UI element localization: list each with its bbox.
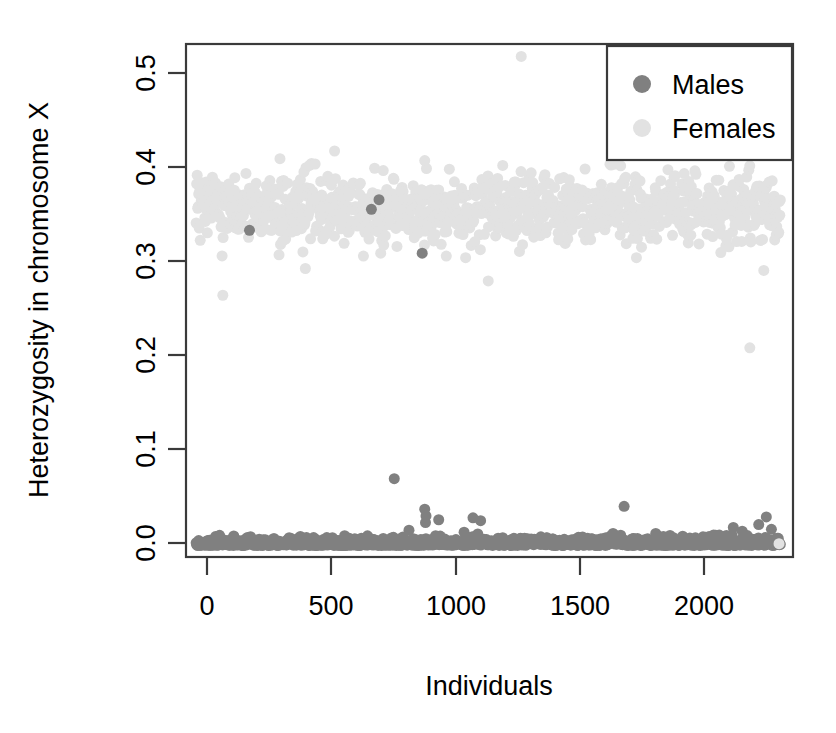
y-axis-title: Heterozygosity in chromosome X xyxy=(24,102,54,498)
data-point xyxy=(744,160,755,171)
data-point xyxy=(775,194,786,205)
data-point xyxy=(516,51,527,62)
data-point xyxy=(615,160,626,171)
data-point xyxy=(460,252,471,263)
data-point xyxy=(620,172,631,183)
data-point xyxy=(713,175,724,186)
data-point xyxy=(737,526,748,537)
data-point xyxy=(667,230,678,241)
data-point xyxy=(774,538,785,549)
data-point xyxy=(497,160,508,171)
legend: Males Females xyxy=(607,46,792,160)
data-point xyxy=(483,275,494,286)
data-point xyxy=(300,263,311,274)
data-point xyxy=(240,168,251,179)
data-point xyxy=(745,236,756,247)
data-point xyxy=(444,164,455,175)
x-tick-label-1: 500 xyxy=(308,591,353,621)
x-tick-label-2: 1000 xyxy=(426,591,486,621)
y-tick-label-4: 0.1 xyxy=(131,430,161,468)
data-point xyxy=(631,252,642,263)
data-point xyxy=(475,244,486,255)
x-tick-label-0: 0 xyxy=(199,591,214,621)
data-point xyxy=(420,517,431,528)
data-point xyxy=(374,194,385,205)
data-point xyxy=(757,234,768,245)
data-point xyxy=(585,234,596,245)
data-point xyxy=(690,169,701,180)
data-point xyxy=(391,241,402,252)
data-point xyxy=(634,176,645,187)
data-point xyxy=(378,240,389,251)
data-point xyxy=(202,227,213,238)
data-point xyxy=(774,210,785,221)
data-point xyxy=(526,167,537,178)
data-point xyxy=(329,145,340,156)
data-point xyxy=(358,251,369,262)
data-point xyxy=(517,239,528,250)
data-point xyxy=(655,175,666,186)
data-point xyxy=(217,250,228,261)
y-tick-label-2: 0.3 xyxy=(131,242,161,280)
x-axis-tick-labels: 0 500 1000 1500 2000 xyxy=(199,591,734,621)
data-point xyxy=(767,175,778,186)
data-point xyxy=(691,188,702,199)
legend-marker-males xyxy=(633,75,651,93)
data-point xyxy=(619,501,630,512)
legend-label-males: Males xyxy=(672,70,744,100)
legend-label-females: Females xyxy=(672,114,776,144)
data-point xyxy=(274,153,285,164)
y-tick-label-5: 0.0 xyxy=(131,524,161,562)
data-point xyxy=(744,342,755,353)
data-point xyxy=(773,227,784,238)
data-point xyxy=(339,238,350,249)
data-point xyxy=(229,172,240,183)
data-point xyxy=(441,251,452,262)
data-point xyxy=(436,239,447,250)
x-axis-title: Individuals xyxy=(425,671,553,701)
x-tick-label-3: 1500 xyxy=(550,591,610,621)
data-point xyxy=(758,265,769,276)
data-point xyxy=(403,525,414,536)
data-point xyxy=(389,473,400,484)
data-point xyxy=(651,234,662,245)
x-axis-ticks xyxy=(207,557,704,575)
data-point xyxy=(766,524,777,535)
data-point xyxy=(251,178,262,189)
data-point xyxy=(430,229,441,240)
data-point xyxy=(310,159,321,170)
plot-canvas: 0.5 0.4 0.3 0.2 0.1 0.0 0 500 1000 1500 … xyxy=(0,0,836,733)
data-point xyxy=(366,204,377,215)
y-tick-label-1: 0.4 xyxy=(131,148,161,186)
y-tick-label-0: 0.5 xyxy=(131,54,161,92)
data-point xyxy=(217,290,228,301)
data-point xyxy=(693,238,704,249)
data-point xyxy=(459,527,470,538)
data-point xyxy=(636,242,647,253)
data-point xyxy=(724,161,735,172)
legend-marker-females xyxy=(633,119,651,137)
data-point xyxy=(355,178,366,189)
data-point xyxy=(244,225,255,236)
data-point xyxy=(419,155,430,166)
x-tick-label-4: 2000 xyxy=(674,591,734,621)
data-point xyxy=(417,248,428,259)
data-point xyxy=(282,178,293,189)
data-point xyxy=(274,249,285,260)
data-point xyxy=(388,174,399,185)
data-point xyxy=(761,511,772,522)
data-point xyxy=(378,165,389,176)
data-point xyxy=(380,230,391,241)
y-axis-tick-labels: 0.5 0.4 0.3 0.2 0.1 0.0 xyxy=(131,54,161,562)
y-tick-label-3: 0.2 xyxy=(131,336,161,374)
data-point xyxy=(685,230,696,241)
data-point xyxy=(297,246,308,257)
data-point xyxy=(580,163,591,174)
data-point xyxy=(433,514,444,525)
data-point xyxy=(475,515,486,526)
y-axis-ticks xyxy=(168,73,186,543)
scatter-plot-figure: 0.5 0.4 0.3 0.2 0.1 0.0 0 500 1000 1500 … xyxy=(0,0,836,733)
